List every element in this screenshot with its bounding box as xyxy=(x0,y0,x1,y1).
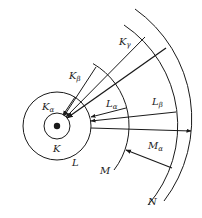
label-shell-m: M xyxy=(99,165,111,176)
m-alpha-arrow xyxy=(126,150,172,168)
l-alpha-arrow xyxy=(91,108,126,117)
label-l-beta: Lβ xyxy=(151,96,163,109)
k-alpha-arrow xyxy=(63,97,75,115)
label-m-alpha: Mα xyxy=(147,140,163,153)
atomic-shell-diagram: Kα Kβ Kγ Lα Lβ Mα K L M N xyxy=(0,0,202,218)
label-shell-n: N xyxy=(147,196,158,207)
label-l-alpha: Lα xyxy=(105,98,118,111)
label-shell-l: L xyxy=(71,157,79,168)
nucleus xyxy=(54,123,60,129)
shell-m-arc xyxy=(93,64,129,170)
label-shell-k: K xyxy=(52,143,61,154)
l-outer-arrow xyxy=(91,128,191,131)
label-k-gamma: Kγ xyxy=(118,36,131,49)
label-k-beta: Kβ xyxy=(68,70,81,83)
label-k-alpha: Kα xyxy=(41,101,54,114)
